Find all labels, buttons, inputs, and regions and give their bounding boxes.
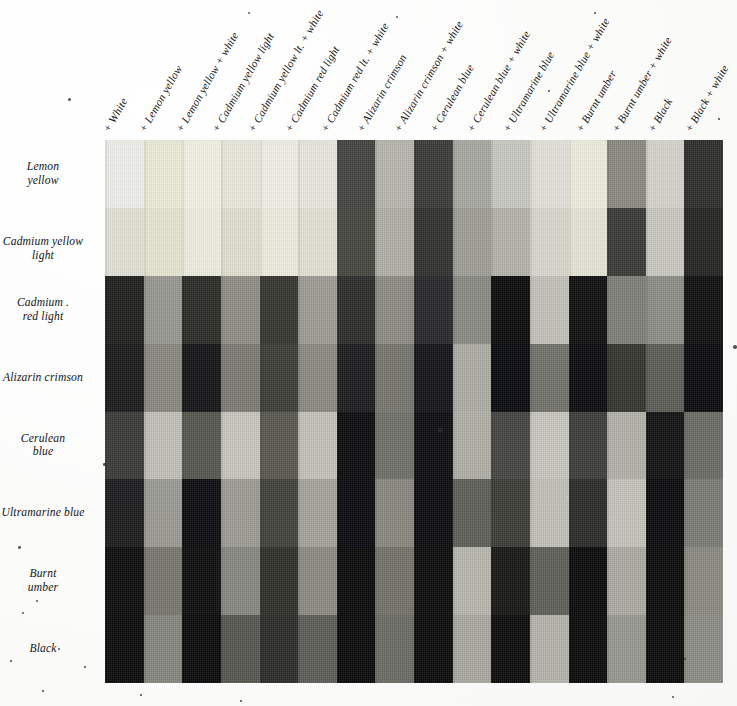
- swatch-r6-c11: [530, 547, 569, 615]
- swatch-r4-c4: [260, 412, 299, 480]
- swatch-r5-c5: [298, 479, 337, 547]
- swatch-r0-c15: [684, 140, 723, 208]
- swatch-r2-c13: [607, 276, 646, 344]
- swatch-r6-c9: [453, 547, 492, 615]
- chart-page: + White+ Lemon yellow+ Lemon yellow + wh…: [0, 0, 737, 706]
- swatch-r5-c7: [375, 479, 414, 547]
- swatch-r5-c11: [530, 479, 569, 547]
- swatch-r7-c3: [221, 615, 260, 683]
- swatch-r3-c3: [221, 344, 260, 412]
- column-header-12: + Ultramarine blue + white: [538, 16, 613, 134]
- row-header-line: Alizarin crimson: [0, 371, 92, 385]
- swatch-r2-c7: [375, 276, 414, 344]
- swatch-r3-c14: [646, 344, 685, 412]
- swatch-r0-c3: [221, 140, 260, 208]
- swatch-r7-c10: [491, 615, 530, 683]
- swatch-r4-c8: [414, 412, 453, 480]
- swatch-grid: [105, 140, 723, 683]
- row-header-3: Alizarin crimson: [0, 371, 92, 385]
- swatch-r3-c8: [414, 344, 453, 412]
- swatch-r7-c12: [569, 615, 608, 683]
- row-header-line: Cadmium yellow light: [0, 235, 92, 262]
- swatch-r4-c6: [337, 412, 376, 480]
- swatch-r4-c9: [453, 412, 492, 480]
- row-header-0: Lemonyellow: [0, 160, 92, 187]
- swatch-r3-c12: [569, 344, 608, 412]
- swatch-r7-c8: [414, 615, 453, 683]
- swatch-r1-c3: [221, 208, 260, 276]
- swatch-r5-c0: [105, 479, 144, 547]
- swatch-r0-c10: [491, 140, 530, 208]
- swatch-r1-c7: [375, 208, 414, 276]
- scan-speck-15: [240, 700, 242, 702]
- swatch-r7-c6: [337, 615, 376, 683]
- row-header-2: Cadmium .red light: [0, 296, 92, 323]
- swatch-r1-c14: [646, 208, 685, 276]
- swatch-r1-c5: [298, 208, 337, 276]
- swatch-r7-c0: [105, 615, 144, 683]
- row-header-line: Burnt: [0, 567, 92, 581]
- swatch-r3-c9: [453, 344, 492, 412]
- swatch-r2-c10: [491, 276, 530, 344]
- swatch-r6-c6: [337, 547, 376, 615]
- row-header-column: LemonyellowCadmium yellow lightCadmium .…: [0, 140, 100, 683]
- swatch-r2-c8: [414, 276, 453, 344]
- swatch-r5-c8: [414, 479, 453, 547]
- scan-speck-16: [672, 696, 674, 698]
- column-header-8: + Alizarin crimson + white: [392, 19, 465, 134]
- swatch-r0-c13: [607, 140, 646, 208]
- swatch-r3-c15: [684, 344, 723, 412]
- swatch-r6-c15: [684, 547, 723, 615]
- row-header-line: red light: [0, 310, 92, 324]
- swatch-r3-c13: [607, 344, 646, 412]
- swatch-r0-c2: [182, 140, 221, 208]
- row-header-4: Ceruleanblue: [0, 432, 92, 459]
- row-header-line: Cerulean: [0, 432, 92, 446]
- swatch-r0-c6: [337, 140, 376, 208]
- swatch-r7-c9: [453, 615, 492, 683]
- swatch-r4-c7: [375, 412, 414, 480]
- swatch-r1-c15: [684, 208, 723, 276]
- swatch-r4-c11: [530, 412, 569, 480]
- swatch-r0-c4: [260, 140, 299, 208]
- swatch-r1-c2: [182, 208, 221, 276]
- swatch-r2-c14: [646, 276, 685, 344]
- swatch-r4-c5: [298, 412, 337, 480]
- swatch-r2-c12: [569, 276, 608, 344]
- swatch-r5-c2: [182, 479, 221, 547]
- column-header-6: + Cadmium red lt. + white: [319, 21, 391, 134]
- swatch-r3-c6: [337, 344, 376, 412]
- scan-speck-5: [733, 345, 737, 349]
- swatch-r6-c10: [491, 547, 530, 615]
- swatch-r6-c8: [414, 547, 453, 615]
- swatch-r7-c15: [684, 615, 723, 683]
- swatch-r5-c10: [491, 479, 530, 547]
- swatch-r3-c5: [298, 344, 337, 412]
- swatch-r6-c3: [221, 547, 260, 615]
- swatch-r4-c14: [646, 412, 685, 480]
- swatch-r0-c7: [375, 140, 414, 208]
- row-header-line: umber: [0, 581, 92, 595]
- swatch-r6-c1: [144, 547, 183, 615]
- swatch-r6-c2: [182, 547, 221, 615]
- swatch-r2-c3: [221, 276, 260, 344]
- swatch-r0-c14: [646, 140, 685, 208]
- column-header-15: + Black: [647, 96, 675, 134]
- swatch-r6-c7: [375, 547, 414, 615]
- swatch-r5-c15: [684, 479, 723, 547]
- swatch-r2-c1: [144, 276, 183, 344]
- swatch-r2-c11: [530, 276, 569, 344]
- swatch-r7-c7: [375, 615, 414, 683]
- swatch-r2-c9: [453, 276, 492, 344]
- swatch-r5-c13: [607, 479, 646, 547]
- swatch-r4-c10: [491, 412, 530, 480]
- swatch-r0-c1: [144, 140, 183, 208]
- swatch-r2-c5: [298, 276, 337, 344]
- row-header-line: Lemon: [0, 160, 92, 174]
- swatch-r7-c4: [260, 615, 299, 683]
- swatch-r6-c0: [105, 547, 144, 615]
- swatch-r1-c6: [337, 208, 376, 276]
- row-header-line: blue: [0, 445, 92, 459]
- swatch-r7-c2: [182, 615, 221, 683]
- row-header-5: Ultramarine blue: [0, 506, 92, 520]
